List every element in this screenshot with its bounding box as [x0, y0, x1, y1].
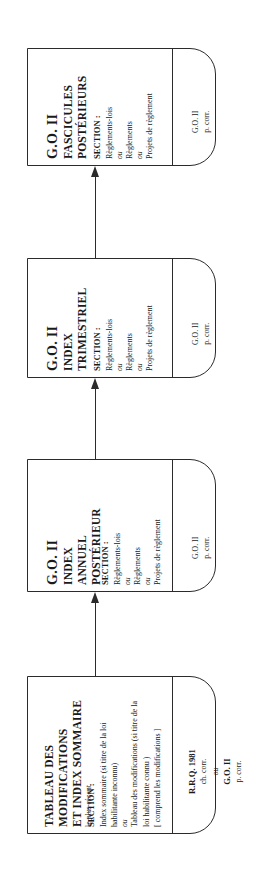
node-footer: G.O. II p. corr.	[190, 323, 213, 345]
node-title: G.O. II INDEX TRIMESTRIEL	[44, 288, 89, 371]
node-title: G.O. II INDEX ANNUEL POSTÉRIEUR	[44, 508, 103, 585]
flow-node-index-trimestriel[interactable]: G.O. II INDEX TRIMESTRIEL SECTION : Règl…	[27, 258, 216, 378]
node-section: SECTION : Règlements-lois ou Règlements …	[100, 519, 164, 585]
node-section: SECTION : Index sommaire (si titre de la…	[86, 701, 163, 827]
node-footer: G.O. II p. corr.	[190, 111, 213, 133]
node-section: SECTION : Règlements-lois ou Règlements …	[92, 93, 156, 159]
node-footer: R.R.Q. 1981 ch. corr. ou G.O. II p. corr…	[186, 749, 245, 794]
node-footer: G.O. II p. corr.	[190, 537, 213, 559]
flow-node-fascicules-posterieurs[interactable]: G.O. II FASCICULES POSTÉRIEURS SECTION :…	[27, 48, 216, 166]
node-section: SECTION : Règlements-lois ou Règlements …	[92, 305, 156, 371]
node-divider	[172, 259, 173, 377]
node-divider	[172, 460, 173, 591]
flow-node-index-annuel-posterieur[interactable]: G.O. II INDEX ANNUEL POSTÉRIEUR SECTION …	[27, 459, 216, 592]
node-title: G.O. II FASCICULES POSTÉRIEURS	[44, 76, 89, 159]
node-divider	[172, 677, 173, 833]
flow-node-tableau-des-modifications[interactable]: TABLEAU DES MODIFICATIONS ET INDEX SOMMA…	[27, 676, 216, 834]
flowchart-canvas: G.O. II FASCICULES POSTÉRIEURS SECTION :…	[0, 0, 253, 885]
node-divider	[172, 49, 173, 165]
